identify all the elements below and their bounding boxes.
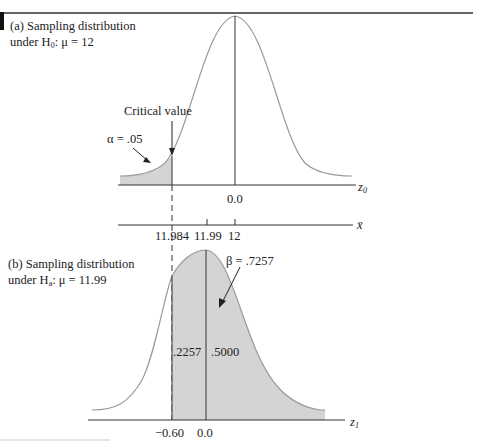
corner-bar [0,12,4,30]
hypothesis-test-figure [0,0,479,441]
xbar-tick-11984: 11.984 [155,229,189,244]
z1-tick-neg060: −0.60 [155,426,184,441]
h0-curve [120,16,352,176]
beta-region [172,250,325,420]
alpha-label: α = .05 [107,132,142,147]
area-right-label: .5000 [211,345,239,360]
z1-axis-label: z1 [350,415,359,433]
xbar-axis-label: x̄ [357,218,363,233]
xbar-tick-12: 12 [228,229,241,244]
z0-tick-0: 0.0 [227,192,243,207]
critical-value-label: Critical value [124,104,192,119]
panel-b-caption: (b) Sampling distribution under Ha: μ = … [8,256,134,292]
z1-tick-0: 0.0 [197,426,213,441]
area-left-label: .2257 [173,345,201,360]
beta-label: β = .7257 [226,254,274,269]
panel-a-caption: (a) Sampling distribution under H0: μ = … [10,18,136,54]
z0-axis-label: z0 [358,180,367,198]
xbar-tick-1199: 11.99 [194,229,222,244]
